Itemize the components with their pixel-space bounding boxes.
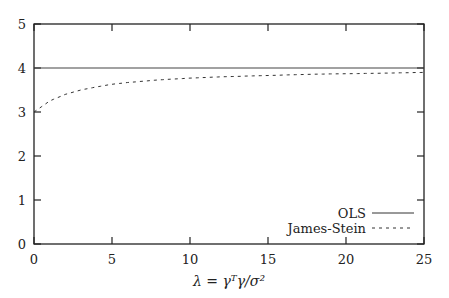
y-tick-label: 5 [18, 17, 26, 32]
x-tick-label: 20 [338, 252, 355, 267]
y-tick-label: 0 [18, 237, 26, 252]
x-tick-label: 25 [416, 252, 433, 267]
x-tick-label: 10 [182, 252, 199, 267]
risk-chart: 0510152025012345OLSJames-Steinλ = γᵀγ/σ² [0, 0, 449, 298]
y-tick-label: 4 [18, 61, 26, 76]
plot-area: 0510152025012345OLSJames-Steinλ = γᵀγ/σ² [18, 17, 433, 290]
x-tick-label: 15 [260, 252, 277, 267]
series-james-stein [34, 72, 424, 112]
x-axis-label: λ = γᵀγ/σ² [192, 273, 265, 289]
y-tick-label: 3 [18, 105, 26, 120]
x-tick-label: 5 [108, 252, 116, 267]
legend-label-ols: OLS [338, 206, 366, 221]
y-tick-label: 1 [18, 193, 26, 208]
y-tick-label: 2 [18, 149, 26, 164]
x-tick-label: 0 [30, 252, 38, 267]
legend-label-james-stein: James-Stein [286, 221, 367, 236]
